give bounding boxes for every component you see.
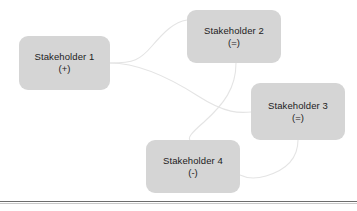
connector-node1-node3 (110, 63, 251, 112)
stakeholder-node-4-title: Stakeholder 4 (163, 155, 223, 167)
stakeholder-node-3[interactable]: Stakeholder 3 (=) (251, 83, 345, 140)
connector-node2-node4 (189, 63, 236, 140)
stakeholder-node-2[interactable]: Stakeholder 2 (=) (187, 10, 281, 63)
connector-node1-node2 (110, 20, 187, 63)
stakeholder-node-4-valence: (-) (188, 167, 198, 179)
bottom-divider-shadow (0, 203, 357, 204)
stakeholder-node-3-valence: (=) (292, 112, 304, 124)
bottom-divider (0, 201, 357, 202)
stakeholder-node-2-valence: (=) (228, 37, 240, 49)
stakeholder-node-2-title: Stakeholder 2 (204, 25, 264, 37)
stakeholder-node-4[interactable]: Stakeholder 4 (-) (146, 140, 240, 193)
stakeholder-node-1-valence: (+) (59, 63, 71, 75)
stakeholder-node-1-title: Stakeholder 1 (35, 51, 95, 63)
connector-node3-node4 (240, 140, 298, 178)
stakeholder-diagram: Stakeholder 1 (+) Stakeholder 2 (=) Stak… (0, 0, 357, 211)
stakeholder-node-3-title: Stakeholder 3 (268, 100, 328, 112)
stakeholder-node-1[interactable]: Stakeholder 1 (+) (19, 36, 110, 90)
